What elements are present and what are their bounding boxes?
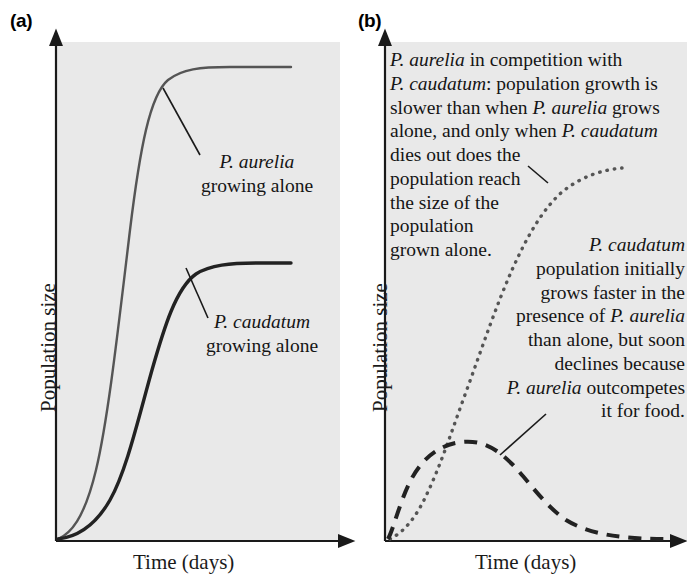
panel-a-y-axis-label: Population size [36,283,61,412]
tb1-l2-species: P. caudatum [390,73,486,94]
tb1-l9: grown alone. [390,239,492,260]
tb1-l3-text-b: grows [607,97,660,118]
tb1-l3-species: P. aurelia [532,97,607,118]
tb1-l5: dies out does the [390,144,521,165]
tb2-l3: grows faster in the [540,282,685,303]
panel-a-letter: (a) [10,10,32,32]
panel-a-annotation-caudatum: P. caudatum growing alone [182,310,342,358]
panel-b-x-axis-label: Time (days) [475,550,576,575]
tb1-l4-text: alone, and only when [390,120,562,141]
tb1-l3-text-a: slower than when [390,97,532,118]
tb1-l1-text: in competition with [465,49,623,70]
panel-b-text-block-competition: P. aurelia in competition with P. caudat… [390,48,685,262]
tb2-l6: declines because [555,353,685,374]
panel-b-y-axis-label: Population size [368,283,393,412]
caudatum-species-name: P. caudatum [214,311,310,332]
tb1-l6: population reach [390,168,521,189]
tb2-l4-species: P. aurelia [610,305,685,326]
tb2-l8: it for food. [601,400,685,421]
caudatum-annotation-text: growing alone [206,335,318,356]
tb2-l7-species: P. aurelia [507,377,582,398]
tb1-l4-species: P. caudatum [562,120,658,141]
tb2-l5: than alone, but soon [528,329,685,350]
tb2-l1-species: P. caudatum [589,234,685,255]
tb2-l7-text: outcompetes [582,377,685,398]
tb1-l8: population [390,215,473,236]
aurelia-species-name: P. aurelia [220,151,295,172]
panel-b-text-block-caudatum: P. caudatum population initially grows f… [490,233,685,423]
tb2-l4-text: presence of [516,305,610,326]
panel-a-plot-background [56,42,340,540]
panel-a: (a) Population size Time (days) P. aurel… [0,0,350,586]
tb1-l1-species: P. aurelia [390,49,465,70]
tb1-l2-text: : population growth is [486,73,658,94]
tb2-l2: population initially [536,258,685,279]
aurelia-annotation-text: growing alone [201,175,313,196]
panel-a-x-axis-label: Time (days) [133,550,234,575]
panel-b-letter: (b) [358,10,381,32]
tb1-l7: the size of the [390,192,499,213]
panel-b: (b) Population size Time (days) P. aurel… [350,0,687,586]
panel-a-annotation-aurelia: P. aurelia growing alone [182,150,332,198]
